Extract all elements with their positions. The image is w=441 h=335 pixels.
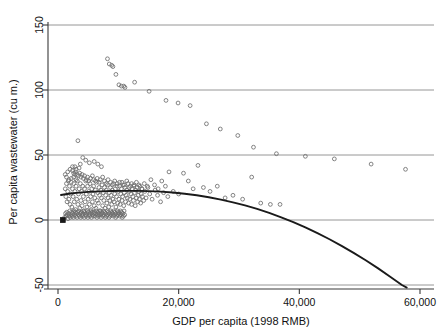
y-axis-title: Per capita wastewater (cu m.) [7, 79, 19, 225]
scatter-chart: 020,00040,00060,000 -50050100150 GDP per… [0, 0, 441, 335]
y-tick-label--50: -50 [33, 277, 45, 292]
x-tick-label-20000: 20,000 [163, 296, 195, 308]
x-tick-label-60000: 60,000 [404, 296, 436, 308]
x-axis-title: GDP per capita (1998 RMB) [172, 315, 309, 327]
y-tick-label-100: 100 [33, 81, 45, 99]
y-tick-label-50: 50 [33, 149, 45, 161]
y-tick-label-0: 0 [33, 217, 45, 223]
x-tick-label-0: 0 [55, 296, 61, 308]
highlighted-data-point [60, 218, 65, 223]
y-tick-label-150: 150 [33, 16, 45, 34]
x-tick-label-40000: 40,000 [283, 296, 315, 308]
